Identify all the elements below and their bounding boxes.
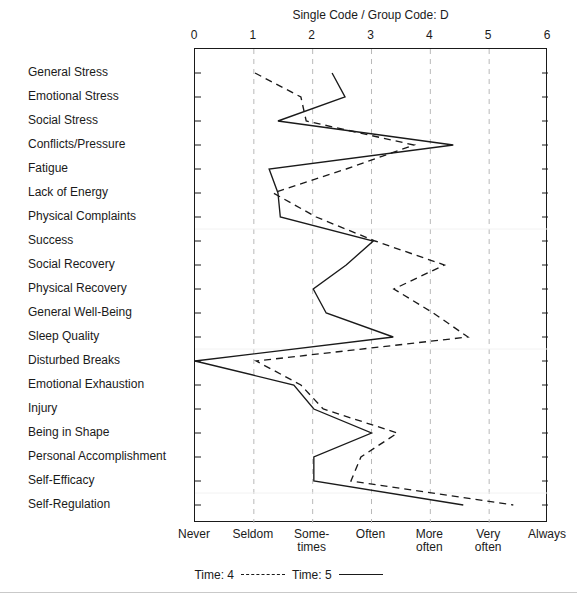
category-label: Conflicts/Pressure	[28, 138, 125, 150]
category-label: Disturbed Breaks	[28, 354, 120, 366]
category-label: Success	[28, 234, 73, 246]
x-tick-label-0: 0	[191, 28, 198, 42]
category-label: Being in Shape	[28, 426, 109, 438]
category-label: General Well-Being	[28, 306, 132, 318]
x-axis-category-labels-bottom: NeverSeldomSome-timesOftenMoreoftenVeryo…	[0, 528, 577, 568]
chart-legend: Time: 4Time: 5	[0, 568, 577, 582]
category-label: Emotional Exhaustion	[28, 378, 144, 390]
legend-label: Time: 5	[292, 568, 332, 582]
series-line-time-5	[195, 73, 463, 505]
series-line-time-4	[255, 73, 513, 505]
category-label: Physical Complaints	[28, 210, 136, 222]
chart-page: Single Code / Group Code: D 0123456 Gene…	[0, 0, 577, 599]
x-tick-label-2: 2	[308, 28, 315, 42]
category-label: Self-Efficacy	[28, 474, 94, 486]
category-label: Physical Recovery	[28, 282, 127, 294]
plot-area	[194, 48, 547, 522]
category-label: Fatigue	[28, 162, 68, 174]
x-axis-tick-labels-top: 0123456	[0, 28, 577, 44]
x-tick-label-6: 6	[544, 28, 551, 42]
chart-title: Single Code / Group Code: D	[194, 8, 547, 22]
category-label: Personal Accomplishment	[28, 450, 166, 462]
category-label: Sleep Quality	[28, 330, 99, 342]
x-tick-label-1: 1	[249, 28, 256, 42]
category-label: Lack of Energy	[28, 186, 108, 198]
x-tick-label-3: 3	[367, 28, 374, 42]
x-tick-label-4: 4	[426, 28, 433, 42]
y-axis-category-labels: General StressEmotional StressSocial Str…	[0, 48, 186, 522]
category-label: Social Stress	[28, 114, 98, 126]
category-label: Injury	[28, 402, 57, 414]
legend-label: Time: 4	[194, 568, 234, 582]
x-tick-label-5: 5	[485, 28, 492, 42]
category-label: Social Recovery	[28, 258, 115, 270]
category-label: Emotional Stress	[28, 90, 119, 102]
category-label: Self-Regulation	[28, 498, 110, 510]
footer-divider	[0, 592, 577, 593]
x-category-label: Always	[512, 528, 577, 541]
legend-swatch-solid	[339, 571, 383, 579]
plot-svg	[195, 49, 548, 523]
category-label: General Stress	[28, 66, 108, 78]
legend-swatch-dashed	[241, 571, 285, 579]
